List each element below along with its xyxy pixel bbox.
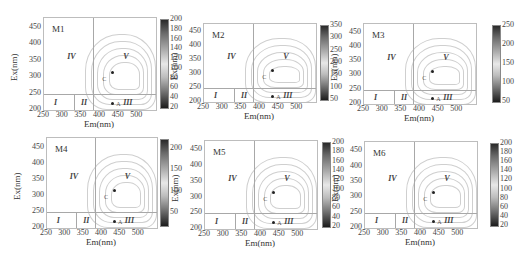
region-label-iv: IV [228,174,236,183]
x-axis-label: Em(nm) [84,119,114,129]
y-tick-label: 450 [22,143,44,151]
region-boundary-ex [205,213,317,214]
region-label-ii: II [242,217,248,226]
colorbar-tick-label: 40 [170,93,178,101]
panel-title: M5 [213,147,226,157]
colorbar-tick-label: 200 [332,138,344,146]
colorbar [160,19,169,109]
x-tick-label: 300 [377,229,389,237]
region-label-i: I [54,98,57,107]
x-tick-label: 350 [394,105,406,113]
y-axis-label: Ex(nm) [329,54,339,82]
x-tick-label: 500 [132,229,144,237]
region-label-i: I [214,91,217,100]
y-tick-label: 400 [179,41,201,49]
region-label-iii: III [444,216,453,225]
contour-line [111,182,141,208]
colorbar-tick-label: 40 [500,212,508,220]
y-axis-label: Ex(nm) [169,53,179,81]
peak-label: C [104,194,108,200]
x-tick-label: 450 [433,229,445,237]
region-boundary-em2 [413,24,414,104]
plot-area: IIIIIIIVVCAM3 [363,23,477,105]
x-tick-label: 300 [58,229,70,237]
y-tick-label: 400 [19,39,41,47]
region-label-v: V [284,174,289,183]
plot-area: IIIIIIIVVCAM1 [43,17,157,111]
x-axis-label: Em(nm) [405,237,435,247]
region-label-iv: IV [387,53,395,62]
colorbar-tick-label: 50 [330,95,338,103]
peak-marker [111,71,114,74]
colorbar [320,25,329,101]
peak-label: A [118,219,122,225]
x-axis-label: Em(nm) [244,111,274,121]
y-tick-label: 300 [19,72,41,80]
region-boundary-em1 [235,213,236,229]
region-boundary-em1 [234,88,235,102]
region-boundary-em2 [414,142,415,228]
x-axis-label: Em(nm) [86,237,116,247]
x-axis-label: Em(nm) [404,113,434,123]
region-label-i: I [57,216,60,225]
x-tick-label: 450 [273,230,285,238]
region-label-iii: III [283,91,292,100]
x-tick-label: 350 [74,111,86,119]
peak-label: A [276,94,280,100]
region-label-iv: IV [70,172,78,181]
y-tick-label: 400 [180,161,202,169]
region-label-iv: IV [227,52,235,61]
x-tick-label: 250 [37,111,49,119]
x-tick-label: 250 [198,230,210,238]
colorbar-tick-label: 50 [170,208,178,216]
y-tick-label: 350 [340,177,362,185]
region-label-iii: III [123,98,132,107]
colorbar-tick-label: 140 [500,166,512,174]
region-label-iv: IV [388,174,396,183]
colorbar-tick-label: 60 [332,203,340,211]
y-axis-label: Ex(nm) [330,175,340,203]
region-label-v: V [125,172,130,181]
peak-label: C [423,196,427,202]
y-tick-label: 250 [22,207,44,215]
region-label-ii: II [402,216,408,225]
colorbar-tick-label: 20 [332,222,340,230]
region-boundary-em2 [254,141,255,229]
x-tick-label: 250 [197,103,209,111]
y-tick-label: 300 [180,193,202,201]
region-boundary-em1 [394,90,395,104]
region-boundary-em2 [93,18,94,110]
plot-area: IIIIIIIVVCAM6 [364,141,478,229]
peak-marker [113,220,116,223]
y-tick-label: 450 [19,23,41,31]
x-tick-label: 350 [395,229,407,237]
x-tick-label: 400 [413,105,425,113]
y-tick-label: 350 [22,175,44,183]
region-label-ii: II [241,91,247,100]
region-label-v: V [123,52,128,61]
region-label-ii: II [401,93,407,102]
peak-label: C [263,196,267,202]
contour-line [430,185,461,208]
colorbar-tick-label: 200 [500,139,512,147]
plot-area: IIIIIIIVVCAM4 [46,137,158,229]
region-boundary-ex [47,212,157,213]
peak-label: A [437,219,441,225]
y-tick-label: 250 [19,89,41,97]
region-label-i: I [215,217,218,226]
x-tick-label: 400 [253,103,265,111]
region-boundary-em1 [76,212,77,228]
x-tick-label: 300 [376,105,388,113]
x-tick-label: 450 [113,229,125,237]
y-tick-label: 300 [179,69,201,77]
panel-title: M6 [373,148,386,158]
plot-area: IIIIIIIVVCAM2 [203,23,317,103]
peak-label: C [262,74,266,80]
region-boundary-em1 [74,94,75,110]
x-tick-label: 300 [217,230,229,238]
region-label-i: I [375,216,378,225]
region-label-iii: III [443,93,452,102]
panel-title: M1 [52,24,65,34]
x-tick-label: 350 [235,230,247,238]
colorbar-tick-label: 160 [500,157,512,165]
